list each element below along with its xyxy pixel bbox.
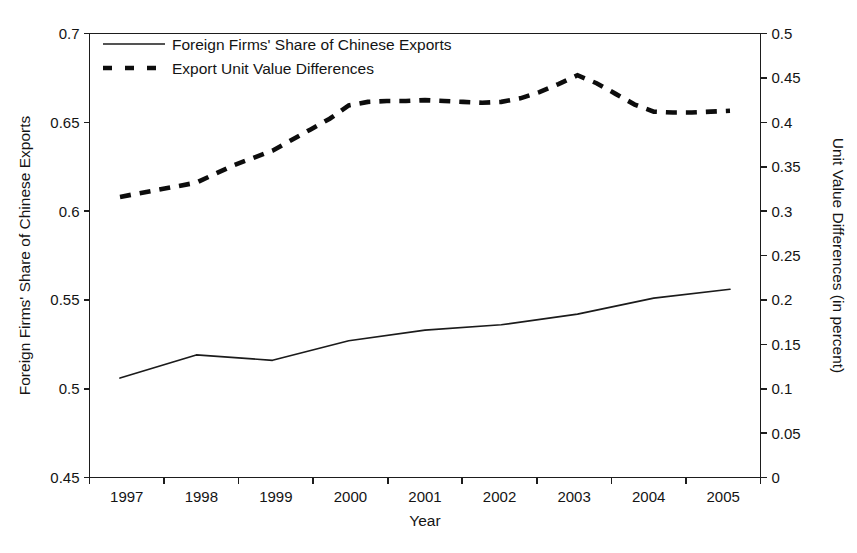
series-line-dashed [120,75,730,197]
data-series [120,75,730,378]
y-axis-title-left: Foreign Firms' Share of Chinese Exports [16,116,33,396]
right-tick-label: 0.3 [772,203,793,220]
chart-figure: 0.450.50.550.60.650.7 00.050.10.150.20.2… [0,0,857,553]
bottom-tick-label: 2001 [408,488,441,505]
series-line-solid [120,289,730,378]
left-tick-label: 0.5 [59,380,80,397]
right-tick-label: 0.35 [772,158,801,175]
left-tick-label: 0.7 [59,25,80,42]
bottom-tick-label: 2005 [707,488,740,505]
chart-legend: Foreign Firms' Share of Chinese ExportsE… [103,36,452,77]
left-axis-ticks: 0.450.50.550.60.650.7 [50,25,89,486]
left-tick-label: 0.6 [59,203,80,220]
bottom-tick-label: 1999 [259,488,292,505]
right-tick-label: 0.1 [772,380,793,397]
chart-svg: 0.450.50.550.60.650.7 00.050.10.150.20.2… [0,0,857,553]
legend-label: Foreign Firms' Share of Chinese Exports [172,36,452,53]
left-tick-label: 0.45 [50,469,79,486]
bottom-tick-label: 2002 [483,488,516,505]
axis-titles: YearForeign Firms' Share of Chinese Expo… [16,116,847,529]
right-tick-label: 0.4 [772,114,793,131]
right-tick-label: 0.45 [772,69,801,86]
bottom-tick-label: 2000 [334,488,367,505]
bottom-axis-ticks: 199719981999200020012002200320042005 [90,478,761,505]
right-tick-label: 0.2 [772,291,793,308]
bottom-tick-label: 1998 [185,488,218,505]
right-tick-label: 0.5 [772,25,793,42]
left-tick-label: 0.65 [50,114,79,131]
left-tick-label: 0.55 [50,291,79,308]
legend-label: Export Unit Value Differences [172,60,374,77]
right-tick-label: 0 [772,469,780,486]
right-axis-ticks: 00.050.10.150.20.250.30.350.40.450.5 [761,25,801,486]
bottom-tick-label: 2003 [557,488,590,505]
right-tick-label: 0.05 [772,425,801,442]
x-axis-title: Year [409,512,440,529]
bottom-tick-label: 2004 [632,488,665,505]
bottom-tick-label: 1997 [110,488,143,505]
right-tick-label: 0.15 [772,336,801,353]
y-axis-title-right: Unit Value Differences (in percent) [830,138,847,373]
right-tick-label: 0.25 [772,247,801,264]
